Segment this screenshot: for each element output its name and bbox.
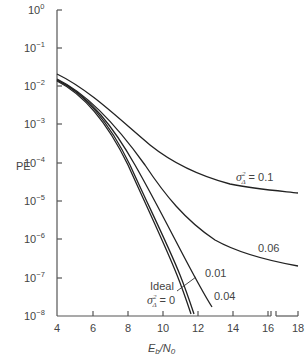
svg-text:10−8: 10−8 [24, 308, 45, 322]
svg-text:10−6: 10−6 [24, 231, 45, 245]
svg-text:100: 100 [28, 2, 44, 16]
label-sigma-0: σ2Δ= 0 [147, 293, 175, 309]
svg-text:16: 16 [262, 322, 274, 334]
svg-text:10−7: 10−7 [24, 270, 45, 284]
svg-text:10−3: 10−3 [24, 116, 45, 130]
curve-sigma-0.04 [57, 80, 212, 307]
svg-text:6: 6 [90, 322, 96, 334]
x-axis-title: Eb/N0 [148, 342, 176, 356]
y-axis-title: PE [16, 160, 31, 172]
svg-text:10−1: 10−1 [24, 40, 45, 54]
pe-vs-ebn0-chart: 100 10−1 10−2 10−3 10−4 10−5 10−6 10−7 1… [0, 0, 306, 358]
x-tick-labels: 4 6 8 10 12 14 16 18 [54, 322, 304, 334]
svg-text:14: 14 [227, 322, 239, 334]
label-0.06: 0.06 [258, 242, 279, 254]
label-sigma-0.1: σ2Δ= 0.1 [236, 170, 273, 186]
svg-text:10−5: 10−5 [24, 193, 45, 207]
curve-sigma-0.01 [57, 80, 194, 314]
svg-text:4: 4 [54, 322, 60, 334]
curves [57, 74, 298, 314]
svg-text:10−2: 10−2 [24, 78, 45, 92]
label-0.04: 0.04 [214, 290, 235, 302]
label-ideal: Ideal [150, 280, 174, 292]
svg-text:10: 10 [157, 322, 169, 334]
label-0.01: 0.01 [205, 267, 226, 279]
svg-text:8: 8 [125, 322, 131, 334]
svg-text:12: 12 [192, 322, 204, 334]
svg-text:18: 18 [292, 322, 304, 334]
